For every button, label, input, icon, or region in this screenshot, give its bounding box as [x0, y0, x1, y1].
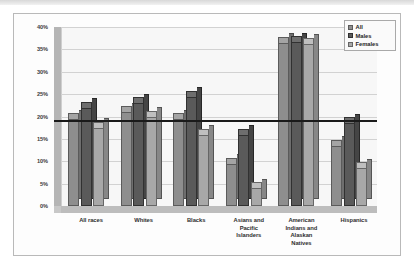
page-background: 0%5%10%15%20%25%30%35%40% All racesWhite… — [0, 0, 414, 269]
bar-face — [133, 101, 144, 206]
bar-group — [278, 27, 324, 206]
bar[interactable] — [121, 110, 132, 206]
bar[interactable] — [146, 114, 157, 206]
legend-item-label: All — [356, 24, 363, 30]
x-axis: All racesWhitesBlacksAsians andPacificIs… — [54, 217, 384, 259]
bar[interactable] — [303, 41, 314, 206]
chart-legend: AllMalesFemales — [344, 20, 396, 51]
x-axis-label-line: Islanders — [219, 232, 279, 240]
bar-side — [104, 118, 109, 199]
legend-item-label: Males — [356, 33, 372, 39]
legend-item[interactable]: All — [348, 24, 392, 30]
bar-top — [186, 91, 197, 98]
bar-side — [314, 34, 319, 199]
bar[interactable] — [133, 101, 144, 206]
bar-face — [68, 117, 79, 207]
x-axis-label-line: Alaskan — [271, 232, 331, 240]
x-axis-label-line: All races — [61, 217, 121, 225]
legend-swatch-icon — [348, 42, 353, 47]
x-axis-label-line: Natives — [271, 240, 331, 248]
x-axis-tick-label: Asians andPacificIslanders — [219, 217, 279, 240]
bar-group — [331, 27, 377, 206]
bar-top — [226, 158, 237, 165]
legend-swatch-icon — [348, 25, 353, 30]
bar-face — [198, 132, 209, 206]
bar[interactable] — [238, 132, 249, 206]
bar-top — [356, 162, 367, 169]
bar-top — [238, 129, 249, 136]
bar[interactable] — [68, 117, 79, 207]
x-axis-tick-label: Hispanics — [324, 217, 384, 225]
bar-face — [238, 132, 249, 206]
y-axis-tick-label: 15% — [18, 136, 48, 142]
bar-top — [251, 182, 262, 189]
chart-frame: 0%5%10%15%20%25%30%35%40% All racesWhite… — [13, 13, 401, 256]
scan-edge — [0, 0, 414, 5]
y-axis-tick-label: 10% — [18, 158, 48, 164]
bar-face — [173, 117, 184, 207]
bar[interactable] — [331, 143, 342, 206]
bar-face — [303, 41, 314, 206]
x-axis-label-line: Hispanics — [324, 217, 384, 225]
bar-face — [331, 143, 342, 206]
bar[interactable] — [198, 132, 209, 206]
reference-line-20-percent — [54, 120, 377, 122]
bar-top — [121, 106, 132, 113]
bar[interactable] — [226, 161, 237, 206]
bar-face — [186, 94, 197, 206]
x-axis-label-line: Asians and — [219, 217, 279, 225]
y-axis-tick-label: 35% — [18, 46, 48, 52]
x-axis-label-line: Blacks — [166, 217, 226, 225]
legend-item[interactable]: Females — [348, 41, 392, 47]
y-axis-tick-label: 25% — [18, 91, 48, 97]
x-axis-tick-label: AmericanIndians andAlaskanNatives — [271, 217, 331, 247]
bar-top — [331, 140, 342, 147]
x-axis-label-line: Indians and — [271, 225, 331, 233]
chart-plot-wrapper: 0%5%10%15%20%25%30%35%40% All racesWhite… — [14, 14, 402, 257]
bar[interactable] — [173, 117, 184, 207]
x-axis-label-line: Whites — [114, 217, 174, 225]
bar-top — [81, 102, 92, 109]
bar-top — [68, 113, 79, 120]
bar[interactable] — [186, 94, 197, 206]
bar[interactable] — [356, 166, 367, 206]
bar-face — [291, 40, 302, 206]
bar-side — [209, 125, 214, 199]
bar-group — [173, 27, 219, 206]
y-axis-tick-label: 0% — [18, 203, 48, 209]
bar-top — [173, 113, 184, 120]
bar-top — [198, 129, 209, 136]
bar-top — [133, 97, 144, 104]
y-axis: 0%5%10%15%20%25%30%35%40% — [18, 27, 48, 213]
bar-group — [226, 27, 272, 206]
x-axis-tick-label: Blacks — [166, 217, 226, 225]
legend-item[interactable]: Males — [348, 33, 392, 39]
y-axis-tick-label: 5% — [18, 181, 48, 187]
bar-group — [68, 27, 114, 206]
bar[interactable] — [251, 186, 262, 206]
bar-group — [121, 27, 167, 206]
bar[interactable] — [93, 125, 104, 206]
y-axis-tick-label: 20% — [18, 114, 48, 120]
bar-top — [291, 36, 302, 43]
bar-face — [344, 121, 355, 206]
bar-side — [262, 179, 267, 199]
bar[interactable] — [291, 40, 302, 206]
bar-face — [278, 40, 289, 206]
y-axis-tick-label: 40% — [18, 24, 48, 30]
y-axis-tick-label: 30% — [18, 69, 48, 75]
bar[interactable] — [278, 40, 289, 206]
bar-top — [303, 38, 314, 45]
bar[interactable] — [344, 121, 355, 206]
legend-swatch-icon — [348, 33, 353, 38]
bar-face — [93, 125, 104, 206]
x-axis-tick-label: Whites — [114, 217, 174, 225]
bar-side — [367, 159, 372, 199]
x-axis-tick-label: All races — [61, 217, 121, 225]
legend-item-label: Females — [356, 41, 379, 47]
bar-face — [146, 114, 157, 206]
x-axis-label-line: American — [271, 217, 331, 225]
bar-face — [356, 166, 367, 206]
bar-top — [278, 37, 289, 44]
x-axis-label-line: Pacific — [219, 225, 279, 233]
